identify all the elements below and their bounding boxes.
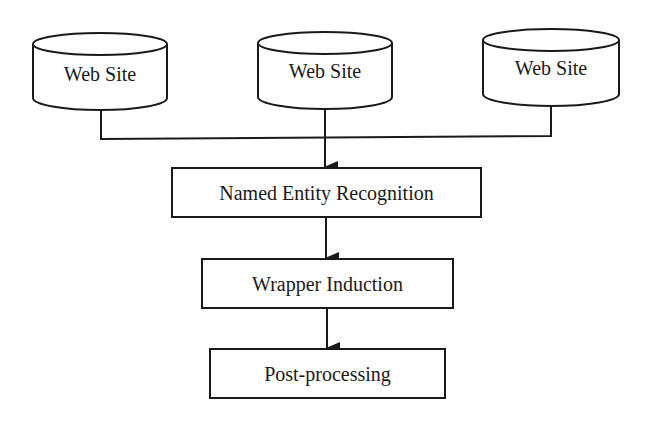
web-site-label-1: Web Site xyxy=(33,64,167,84)
web-site-label-2: Web Site xyxy=(258,61,392,81)
wrapper-induction-label: Wrapper Induction xyxy=(252,274,403,294)
flowchart-diagram: Web Site Web Site Web Site Named Entity … xyxy=(0,0,646,424)
named-entity-recognition-box: Named Entity Recognition xyxy=(171,167,482,218)
web-site-label-3: Web Site xyxy=(483,58,619,78)
post-processing-label: Post-processing xyxy=(264,364,391,384)
named-entity-recognition-label: Named Entity Recognition xyxy=(219,183,433,203)
post-processing-box: Post-processing xyxy=(209,348,446,399)
wrapper-induction-box: Wrapper Induction xyxy=(201,258,454,309)
